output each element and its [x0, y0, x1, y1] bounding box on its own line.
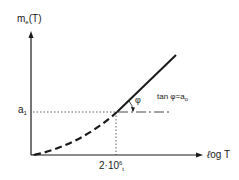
x-marker-label-sub: t	[122, 166, 124, 172]
y-axis-label-tail: (T)	[29, 13, 42, 24]
curve-solid-segment	[117, 55, 176, 112]
x-marker-label: 2·106t	[99, 160, 124, 172]
slope-annotation-sub: o	[185, 96, 188, 102]
diagram-canvas	[0, 0, 239, 180]
curve-dashed-segment	[34, 112, 117, 155]
angle-arrow-icon	[131, 107, 135, 112]
angle-label: φ	[135, 96, 141, 105]
x-marker-label-main: 2·10	[99, 160, 119, 171]
x-axis-arrow-icon	[196, 153, 203, 158]
a1-label: a1	[18, 105, 27, 116]
a1-label-sub: 1	[24, 110, 27, 116]
y-axis-label: me(T)	[17, 14, 41, 25]
y-axis-arrow-icon	[29, 31, 34, 38]
slope-annotation: tan φ=ao	[157, 93, 188, 102]
x-axis-label: ℓog T	[207, 150, 230, 160]
slope-annotation-main: tan φ=a	[157, 92, 185, 101]
angle-symbol: φ	[135, 95, 141, 105]
x-axis-label-main: og T	[210, 149, 230, 160]
